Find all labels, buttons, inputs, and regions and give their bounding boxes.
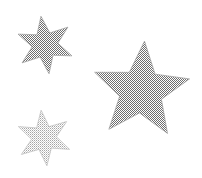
star-bottom-left bbox=[18, 110, 69, 166]
star-top-left bbox=[18, 16, 72, 73]
image-canvas bbox=[0, 0, 202, 178]
stars-illustration bbox=[0, 0, 202, 178]
star-right-large bbox=[95, 41, 190, 133]
